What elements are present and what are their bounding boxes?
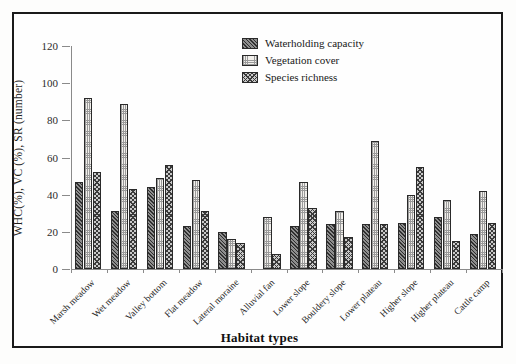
y-tick-mark [62, 195, 70, 196]
x-tick-mark [322, 269, 323, 273]
x-tick-mark [394, 269, 395, 273]
y-tick-mark [62, 158, 70, 159]
bar [183, 226, 191, 269]
y-tick-label: 20 [47, 224, 58, 240]
bar [93, 172, 101, 269]
bar [111, 211, 119, 269]
x-tick-mark [107, 269, 108, 273]
x-tick-mark [71, 269, 72, 273]
bar [308, 208, 316, 269]
y-tick-label: 40 [47, 187, 58, 203]
bar [227, 239, 235, 269]
x-tick-mark [358, 269, 359, 273]
bar [84, 98, 92, 269]
x-tick-mark [502, 269, 503, 273]
bar [479, 191, 487, 269]
legend-swatch [242, 72, 258, 83]
x-tick-mark [143, 269, 144, 273]
bar [407, 195, 415, 269]
y-tick: 40 [62, 195, 70, 196]
y-tick-mark [62, 232, 70, 233]
y-tick-mark [62, 83, 70, 84]
y-tick: 120 [62, 46, 70, 47]
legend-item: Waterholding capacity [242, 36, 364, 51]
legend-item: Vegetation cover [242, 53, 364, 68]
x-tick-mark [287, 269, 288, 273]
bar [362, 224, 370, 269]
bar [344, 237, 352, 269]
bar [120, 104, 128, 269]
bar [192, 180, 200, 269]
x-tick-mark [215, 269, 216, 273]
bar [470, 234, 478, 269]
y-tick-mark [62, 120, 70, 121]
y-tick: 80 [62, 120, 70, 121]
y-tick-label: 80 [47, 112, 58, 128]
bar [371, 141, 379, 269]
bar [129, 189, 137, 269]
bar [75, 182, 83, 269]
x-tick-mark [251, 269, 252, 273]
bar [299, 182, 307, 269]
legend-label: Waterholding capacity [265, 38, 364, 49]
figure-border: WHC(%), VC (%), SR (number) 020406080100… [12, 12, 503, 348]
bar [147, 187, 155, 269]
bar [272, 254, 280, 269]
bar [443, 200, 451, 269]
bar [416, 167, 424, 269]
bar [326, 224, 334, 269]
legend-swatch [242, 55, 258, 66]
bar [156, 178, 164, 269]
y-tick-label: 120 [42, 38, 59, 54]
legend-label: Vegetation cover [265, 55, 339, 66]
bar [263, 217, 271, 269]
legend-swatch [242, 38, 258, 49]
bar [236, 243, 244, 269]
x-tick-mark [179, 269, 180, 273]
bar [380, 224, 388, 269]
y-axis-title: WHC(%), VC (%), SR (number) [12, 46, 28, 270]
bar [290, 226, 298, 269]
bar [398, 223, 406, 269]
y-tick-label: 100 [42, 75, 59, 91]
x-tick-mark [466, 269, 467, 273]
bar [488, 223, 496, 269]
bar [452, 241, 460, 269]
y-tick: 60 [62, 158, 70, 159]
y-tick-mark [62, 46, 70, 47]
bar [201, 211, 209, 269]
legend-label: Species richness [265, 72, 337, 83]
bar [434, 217, 442, 269]
x-axis-title: Habitat types [14, 330, 505, 346]
y-tick-label: 60 [47, 150, 58, 166]
y-tick: 0 [62, 269, 70, 270]
figure: WHC(%), VC (%), SR (number) 020406080100… [0, 0, 516, 364]
y-tick: 100 [62, 83, 70, 84]
y-tick-label: 0 [53, 261, 59, 277]
chart-legend: Waterholding capacityVegetation coverSpe… [242, 36, 364, 87]
x-tick-mark [430, 269, 431, 273]
y-tick: 20 [62, 232, 70, 233]
y-tick-mark [62, 269, 70, 270]
legend-item: Species richness [242, 70, 364, 85]
bar [218, 232, 226, 269]
bar [165, 165, 173, 269]
bar [335, 211, 343, 269]
